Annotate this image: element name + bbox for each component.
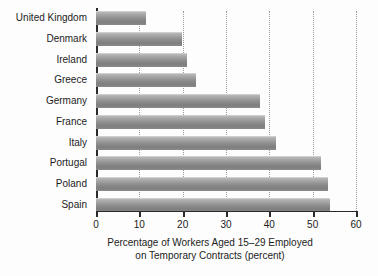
- bar: [96, 156, 321, 170]
- bar-series: [96, 11, 356, 211]
- gridline: [356, 11, 357, 217]
- x-axis-tick: [183, 211, 185, 217]
- x-axis-tick-label: 20: [177, 219, 188, 230]
- bar: [96, 11, 146, 25]
- y-axis-tick-label: Spain: [0, 198, 92, 211]
- bar: [96, 115, 265, 129]
- bar-row: [96, 53, 356, 66]
- x-axis-title-line-1: Percentage of Workers Aged 15–29 Employe…: [60, 236, 360, 249]
- x-axis-tick-label: 60: [350, 219, 361, 230]
- bar: [96, 198, 330, 212]
- x-axis-tick-label: 40: [264, 219, 275, 230]
- bar: [96, 32, 182, 46]
- bar-row: [96, 94, 356, 107]
- bar-row: [96, 136, 356, 149]
- x-axis-tick: [269, 211, 271, 217]
- x-axis-tick: [139, 211, 141, 217]
- x-axis-title-line-2: on Temporary Contracts (percent): [60, 249, 360, 262]
- bar: [96, 94, 260, 108]
- bar-row: [96, 156, 356, 169]
- y-axis-labels: United Kingdom Denmark Ireland Greece Ge…: [0, 11, 92, 211]
- x-axis-tick: [226, 211, 228, 217]
- x-axis-title: Percentage of Workers Aged 15–29 Employe…: [60, 236, 360, 262]
- bar: [96, 73, 196, 87]
- bar-row: [96, 73, 356, 86]
- y-axis-tick-label: Greece: [0, 73, 92, 86]
- x-axis-tick-label: 0: [93, 219, 99, 230]
- y-axis-tick-label: Germany: [0, 94, 92, 107]
- bar-row: [96, 177, 356, 190]
- bar-row: [96, 32, 356, 45]
- bar: [96, 177, 328, 191]
- x-axis-tick-labels: 0 10 20 30 40 50 60: [0, 219, 378, 233]
- y-axis-tick-label: Denmark: [0, 32, 92, 45]
- x-axis-tick-label: 50: [307, 219, 318, 230]
- x-axis-tick: [313, 211, 315, 217]
- x-axis-tick: [356, 211, 358, 217]
- bar-row: [96, 11, 356, 24]
- bar-chart-figure: United Kingdom Denmark Ireland Greece Ge…: [0, 0, 378, 276]
- y-axis-tick-label: Ireland: [0, 53, 92, 66]
- y-axis-tick-label: Portugal: [0, 156, 92, 169]
- plot-area: [96, 11, 356, 211]
- bar: [96, 53, 187, 67]
- bar-row: [96, 198, 356, 211]
- bar-row: [96, 115, 356, 128]
- x-axis-tick-label: 10: [134, 219, 145, 230]
- y-axis-tick-label: United Kingdom: [0, 11, 92, 24]
- x-axis-tick: [96, 211, 98, 217]
- bar: [96, 136, 276, 150]
- y-axis-tick-label: Poland: [0, 177, 92, 190]
- y-axis-tick-label: France: [0, 115, 92, 128]
- x-axis-tick-label: 30: [220, 219, 231, 230]
- y-axis-tick-label: Italy: [0, 136, 92, 149]
